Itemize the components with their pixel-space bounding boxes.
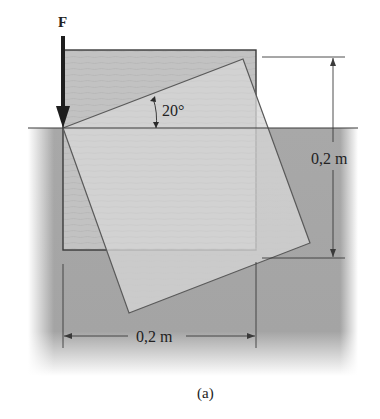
force-label: F — [58, 14, 67, 30]
width-dimension-label: 0,2 m — [136, 328, 173, 345]
height-dimension-label: 0,2 m — [311, 150, 348, 167]
diagram-canvas: F 20° 0,2 m 0,2 m (a) — [0, 0, 380, 419]
angle-label: 20° — [162, 102, 184, 119]
figure-caption: (a) — [197, 385, 214, 402]
